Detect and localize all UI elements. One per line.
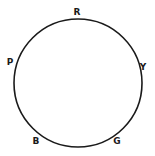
label-g: G xyxy=(113,136,120,146)
label-b: B xyxy=(33,136,40,146)
label-r: R xyxy=(74,7,81,17)
label-p: P xyxy=(7,57,14,67)
color-wheel-diagram: R Y G B P xyxy=(0,0,155,156)
label-y: Y xyxy=(139,62,147,72)
circle-outline xyxy=(14,19,142,147)
